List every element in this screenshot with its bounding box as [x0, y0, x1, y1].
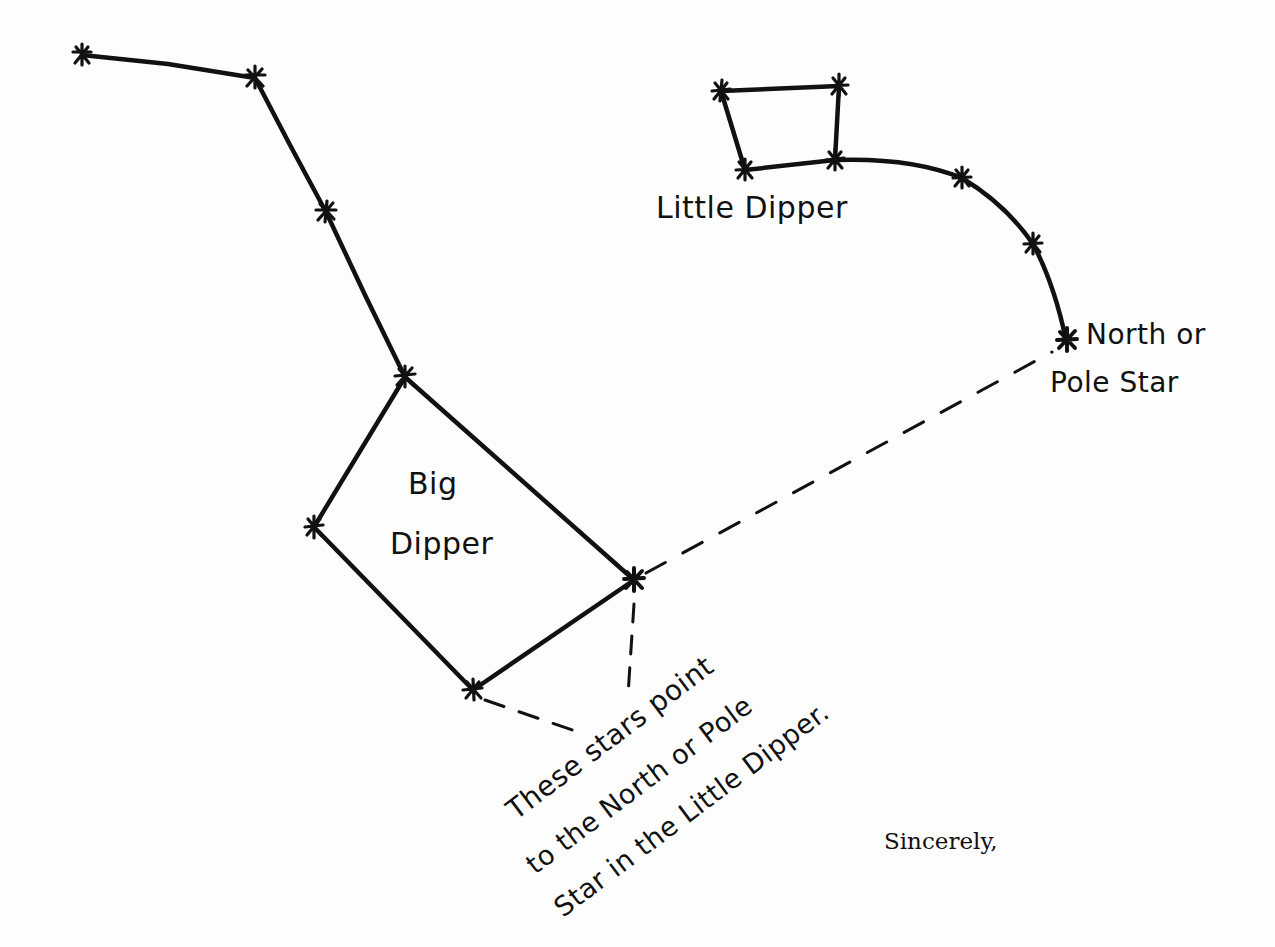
little-dipper-handle — [835, 160, 1066, 340]
star-icon — [316, 201, 336, 222]
big-dipper — [82, 55, 634, 690]
pointer-annotation-line-right — [628, 604, 634, 695]
pole-star-label-line1: North or — [1086, 318, 1206, 351]
star-icon — [736, 159, 754, 180]
big-dipper-label-line1: Big — [408, 466, 457, 501]
star-icon — [830, 74, 848, 96]
pointer-annotation-line-left — [485, 700, 578, 732]
star-icon — [463, 679, 482, 700]
stars — [73, 44, 1077, 700]
star-icon — [305, 516, 323, 538]
big-dipper-label-line2: Dipper — [390, 526, 493, 561]
star-icon — [953, 167, 971, 188]
star-icon — [1024, 233, 1042, 254]
star-icon — [712, 80, 730, 101]
big-dipper-handle — [82, 55, 405, 377]
pole-star-label-line2: Pole Star — [1050, 366, 1179, 399]
closing-text: Sincerely, — [884, 828, 998, 854]
little-dipper-bowl — [721, 86, 839, 170]
star-icon — [395, 366, 415, 387]
pole-star-icon — [1057, 328, 1077, 351]
little-dipper-label: Little Dipper — [656, 190, 848, 225]
pointer-to-pole-star-line — [646, 352, 1052, 573]
pointer-lines — [485, 352, 1052, 732]
star-icon — [826, 149, 844, 170]
pointer-star-icon — [624, 568, 644, 591]
